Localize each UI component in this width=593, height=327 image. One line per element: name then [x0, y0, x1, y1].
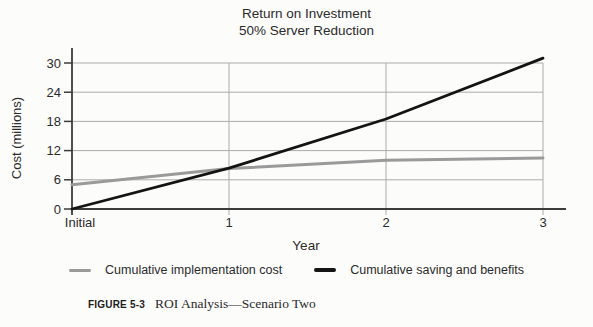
- roi-line-chart: 0612182430Initial123Cost (millions)Year: [0, 0, 593, 327]
- y-tick-label-24: 24: [47, 85, 61, 100]
- legend-label: Cumulative saving and benefits: [350, 263, 524, 277]
- x-tick-label-2: 2: [382, 215, 389, 230]
- figure-caption: FIGURE 5-3 ROI Analysis—Scenario Two: [88, 296, 316, 312]
- legend-swatch: [314, 268, 336, 272]
- y-axis-title: Cost (millions): [9, 97, 24, 179]
- series-line-saving-benefits: [72, 58, 543, 209]
- series-line-implementation-cost: [72, 158, 543, 185]
- y-tick-label-6: 6: [54, 172, 61, 187]
- legend-swatch: [69, 269, 91, 272]
- x-tick-label-3: 3: [539, 215, 546, 230]
- x-axis-title: Year: [292, 238, 320, 253]
- figure-page: Return on Investment 50% Server Reductio…: [0, 0, 593, 327]
- figure-caption-label: FIGURE 5-3: [88, 299, 145, 310]
- y-tick-label-12: 12: [47, 143, 61, 158]
- x-tick-label-1: 1: [225, 215, 232, 230]
- y-tick-label-30: 30: [47, 56, 61, 71]
- chart-legend: Cumulative implementation costCumulative…: [0, 263, 593, 277]
- figure-caption-text: ROI Analysis—Scenario Two: [155, 296, 316, 312]
- y-tick-label-18: 18: [47, 114, 61, 129]
- legend-item-saving-benefits: Cumulative saving and benefits: [314, 263, 524, 277]
- legend-item-implementation-cost: Cumulative implementation cost: [69, 263, 282, 277]
- y-tick-label-0: 0: [54, 202, 61, 217]
- x-tick-label-Initial: Initial: [65, 215, 95, 230]
- legend-label: Cumulative implementation cost: [105, 263, 282, 277]
